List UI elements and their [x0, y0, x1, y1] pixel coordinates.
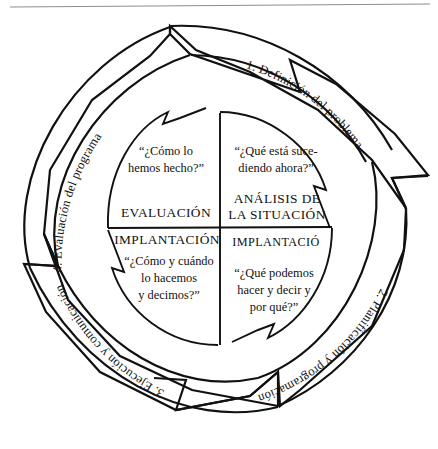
- outer-step-1-label: 1. Definición del problema: [245, 58, 367, 152]
- outer-arrow-top-right: [170, 26, 428, 208]
- implantation-right-question-line3: por qué?”: [250, 300, 299, 314]
- cyclical-process-diagram: 4. Evaluación del programa 1. Definición…: [0, 0, 438, 449]
- center-horizontal-divider: [108, 227, 332, 228]
- implantation-right-question-line2: hacer y decir y: [237, 283, 311, 297]
- outer-step-1-textpath: 1. Definición del problema: [245, 58, 367, 152]
- analysis-heading-line1: ANÁLISIS DE: [234, 191, 321, 206]
- implantation-left-question-line3: y decimos?”: [138, 288, 200, 302]
- page-top-rule: [10, 4, 430, 7]
- analysis-heading-line2: LA SITUACIÓN: [228, 207, 325, 222]
- analysis-question-line2: diendo ahora?”: [238, 161, 313, 175]
- implantation-right-heading: IMPLANTACIÓ: [232, 235, 319, 249]
- evaluation-question-line2: hemos hecho?”: [128, 161, 204, 175]
- implantation-left-heading: IMPLANTACIÓN: [114, 232, 220, 247]
- implantation-right-question-line1: “¿Qué podemos: [234, 266, 314, 280]
- analysis-question-line1: “¿Qué está suce-: [234, 144, 317, 158]
- evaluation-heading: EVALUACIÓN: [121, 205, 211, 220]
- evaluation-question-line1: “¿Cómo lo: [139, 144, 193, 158]
- diagram-canvas: 4. Evaluación del programa 1. Definición…: [0, 0, 438, 449]
- implantation-left-question-line2: lo hacemos: [141, 271, 197, 285]
- implantation-left-question-line1: “¿Cómo y cuándo: [124, 254, 213, 268]
